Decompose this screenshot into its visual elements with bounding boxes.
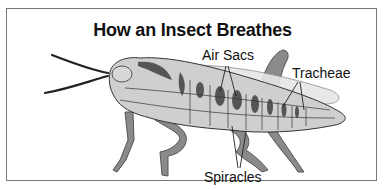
label-air-sacs: Air Sacs	[202, 47, 254, 63]
label-spiracles: Spiracles	[204, 169, 262, 185]
antennae	[45, 55, 108, 93]
insect-illustration	[0, 0, 385, 190]
label-tracheae: Tracheae	[292, 65, 351, 81]
